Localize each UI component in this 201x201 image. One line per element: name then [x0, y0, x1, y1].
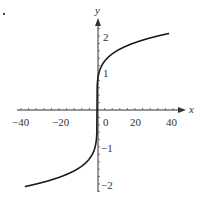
y-arrow-icon — [95, 18, 101, 26]
x-tick-label: −20 — [52, 116, 70, 128]
artifact-dot — [3, 13, 5, 15]
y-axis — [95, 18, 101, 192]
x-arrow-icon — [178, 107, 186, 113]
y-tick-label: −1 — [101, 142, 113, 154]
x-tick-label: 20 — [130, 116, 142, 128]
x-tick-label: 40 — [166, 116, 178, 128]
x-tick-label: 0 — [103, 116, 109, 128]
y-tick-label: −2 — [101, 179, 113, 191]
x-tick-label: −40 — [12, 116, 30, 128]
y-tick-label: 2 — [103, 31, 109, 43]
x-axis-label: x — [188, 103, 194, 115]
x-axis — [17, 107, 186, 113]
y-tick-label: 1 — [103, 67, 109, 79]
y-axis-label: y — [94, 4, 100, 16]
function-plot: x y −40 −20 0 20 40 2 1 −1 −2 — [0, 0, 201, 201]
